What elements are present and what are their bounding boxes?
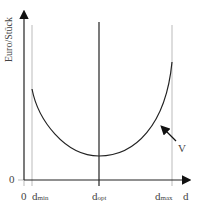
cost-curve-v — [32, 62, 172, 156]
diagram-canvas — [0, 0, 197, 208]
curve-pointer-arrow — [162, 127, 176, 141]
tick-dopt: dopt — [92, 191, 106, 202]
tick-dmax: dmax — [155, 191, 173, 202]
y-axis-label: Euro/Stück — [3, 17, 14, 62]
y-origin-label: 0 — [9, 174, 15, 185]
curve-label-v: V — [178, 143, 186, 154]
x-axis-label: d — [183, 191, 189, 202]
tick-dmin: dmin — [32, 191, 48, 202]
x-origin-label: 0 — [21, 191, 27, 202]
